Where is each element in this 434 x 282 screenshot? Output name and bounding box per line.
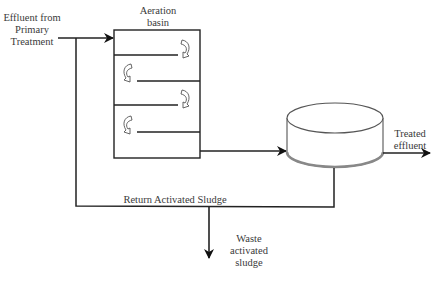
aeration-label-line1: Aeration [128,5,188,17]
treated-label-line2: effluent [386,140,434,152]
influent-label-line2: Primary [2,24,62,36]
influent-label-line3: Treatment [2,36,62,48]
aeration-basin [114,30,200,158]
secondary-clarifier [287,103,383,167]
influent-label-line1: Effluent from [2,12,62,24]
return-sludge-label: Return Activated Sludge [120,194,230,206]
influent-label: Effluent from Primary Treatment [2,12,62,48]
waste-label-line3: sludge [224,257,274,269]
process-flow-diagram [0,0,434,282]
aeration-label-line2: basin [128,17,188,29]
waste-sludge-label: Waste activated sludge [224,233,274,269]
waste-label-line2: activated [224,245,274,257]
aeration-basin-label: Aeration basin [128,5,188,29]
treated-label-line1: Treated [386,128,434,140]
treated-effluent-label: Treated effluent [386,128,434,152]
waste-label-line1: Waste [224,233,274,245]
